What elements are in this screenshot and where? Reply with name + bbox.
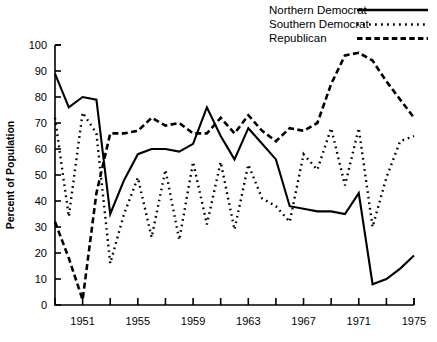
x-tick-label: 1955 [126,315,150,327]
y-tick-label: 0 [41,299,47,311]
x-tick-label: 1975 [402,315,426,327]
y-tick-label: 90 [35,65,47,77]
line-chart: Northern Democrat Southern Democrat Repu… [0,0,437,342]
legend-label-northern-democrat: Northern Democrat [269,4,368,16]
chart-series-layer [55,53,414,300]
y-tick-label: 70 [35,117,47,129]
y-tick-label: 30 [35,221,47,233]
x-tick-label: 1951 [70,315,94,327]
x-tick-label: 1959 [181,315,205,327]
chart-legend: Northern Democrat Southern Democrat Repu… [269,4,428,44]
legend-label-republican: Republican [269,32,327,44]
chart-canvas: Northern Democrat Southern Democrat Repu… [0,0,437,342]
y-tick-label: 80 [35,91,47,103]
chart-axes: 0102030405060708090100195119551959196319… [29,39,427,327]
series-line-northern-democrat [55,74,414,285]
legend-label-southern-democrat: Southern Democrat [269,18,370,30]
y-tick-label: 100 [29,39,47,51]
x-tick-label: 1963 [236,315,260,327]
x-tick-label: 1967 [291,315,315,327]
y-tick-label: 10 [35,273,47,285]
y-tick-label: 40 [35,195,47,207]
y-tick-label: 60 [35,143,47,155]
y-tick-label: 50 [35,169,47,181]
x-tick-label: 1971 [347,315,371,327]
y-tick-label: 20 [35,247,47,259]
y-axis-title: Percent of Population [4,121,16,230]
series-line-republican [55,53,414,300]
